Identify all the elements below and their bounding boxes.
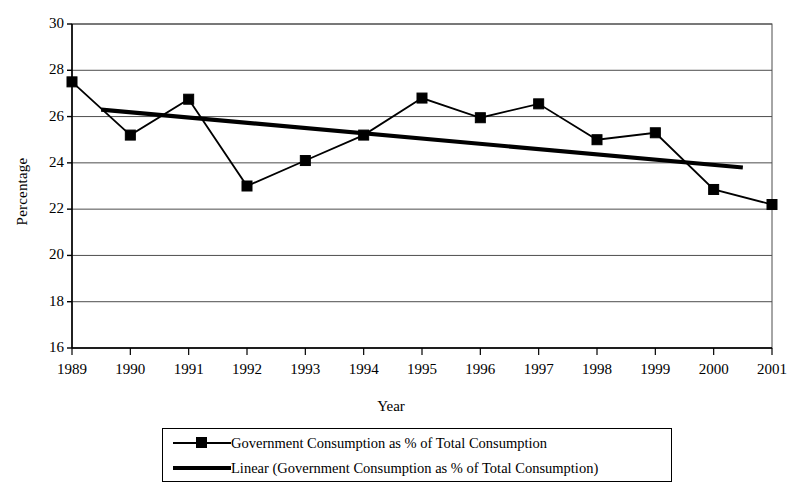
x-axis-tick-label: 1989 [42,362,102,377]
trendline [101,110,743,168]
x-axis-tick-label: 1997 [509,362,569,377]
data-point-marker [534,99,544,109]
x-axis-tick-label: 1990 [100,362,160,377]
x-axis-tick-label: 1994 [334,362,394,377]
data-point-marker [184,94,194,104]
x-axis-tick-label: 2000 [684,362,744,377]
x-axis-tick-label: 1992 [217,362,277,377]
data-point-marker [125,130,135,140]
data-point-marker [242,181,252,191]
data-point-marker [767,200,777,210]
legend-entry-label: Linear (Government Consumption as % of T… [231,461,598,476]
x-axis-tick-label: 1999 [625,362,685,377]
plot-frame [72,24,772,348]
data-point-marker [300,156,310,166]
data-point-marker [417,93,427,103]
data-point-marker [650,128,660,138]
legend-entry: Government Consumption as % of Total Con… [163,430,671,456]
data-point-marker [475,113,485,123]
x-axis-title: Year [0,398,782,415]
x-axis-tick-label: 1991 [159,362,219,377]
x-axis-tick-label: 1996 [450,362,510,377]
data-point-marker [592,135,602,145]
legend-key-line-marker [173,433,231,453]
legend-key-trendline [173,458,231,478]
x-axis-tick-label: 1995 [392,362,452,377]
x-axis-tick-label: 2001 [742,362,791,377]
data-point-marker [67,77,77,87]
x-axis-tick-label: 1993 [275,362,335,377]
chart-legend: Government Consumption as % of Total Con… [162,428,672,482]
x-axis-tick-label: 1998 [567,362,627,377]
legend-entry: Linear (Government Consumption as % of T… [163,455,671,481]
data-point-marker [709,184,719,194]
x-axis-tick-labels: 1989199019911992199319941995199619971998… [0,362,782,386]
legend-entry-label: Government Consumption as % of Total Con… [231,436,547,451]
